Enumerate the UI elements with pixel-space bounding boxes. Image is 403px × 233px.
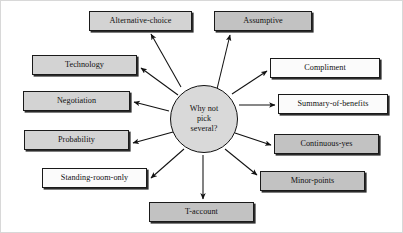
node-summary-of-benefits[interactable]: Summary-of-benefits bbox=[278, 94, 388, 114]
node-label: Probability bbox=[58, 136, 95, 145]
edge-hub-to-probability bbox=[133, 132, 173, 143]
diagram-canvas: Why not pick several? Alternative-choice… bbox=[0, 0, 403, 233]
hub-label-line-2: pick bbox=[190, 114, 218, 124]
node-compliment[interactable]: Compliment bbox=[270, 58, 380, 78]
node-assumptive[interactable]: Assumptive bbox=[214, 11, 312, 31]
hub-node-why-not-pick-several[interactable]: Why not pick several? bbox=[170, 85, 238, 153]
edge-hub-to-assumptive bbox=[217, 35, 230, 89]
node-alternative-choice[interactable]: Alternative-choice bbox=[89, 11, 192, 31]
edge-hub-to-negotiation bbox=[134, 102, 169, 111]
node-standing-room-only[interactable]: Standing-room-only bbox=[42, 168, 147, 188]
hub-label-line-3: several? bbox=[190, 124, 218, 134]
node-label: Assumptive bbox=[243, 17, 283, 26]
node-label: Compliment bbox=[304, 64, 345, 73]
node-label: Technology bbox=[65, 61, 104, 70]
node-label: Continuous-yes bbox=[300, 140, 352, 149]
node-minor-points[interactable]: Minor-points bbox=[260, 171, 365, 191]
edge-hub-to-continuous-yes bbox=[235, 133, 271, 145]
node-label: Summary-of-benefits bbox=[298, 100, 369, 109]
node-label: Negotiation bbox=[57, 97, 96, 106]
hub-label: Why not pick several? bbox=[190, 104, 218, 133]
node-continuous-yes[interactable]: Continuous-yes bbox=[274, 134, 379, 154]
node-negotiation[interactable]: Negotiation bbox=[23, 91, 130, 111]
edge-hub-to-compliment bbox=[232, 71, 267, 94]
edge-hub-to-standing-room-only bbox=[151, 149, 184, 178]
hub-label-line-1: Why not bbox=[190, 104, 218, 114]
node-label: Minor-points bbox=[291, 177, 335, 186]
edge-hub-to-minor-points bbox=[225, 149, 257, 175]
node-technology[interactable]: Technology bbox=[32, 55, 137, 75]
node-probability[interactable]: Probability bbox=[24, 130, 129, 150]
node-label: T-account bbox=[185, 208, 218, 217]
node-label: Standing-room-only bbox=[61, 174, 128, 183]
node-label: Alternative-choice bbox=[110, 17, 172, 26]
node-t-account[interactable]: T-account bbox=[149, 202, 254, 222]
